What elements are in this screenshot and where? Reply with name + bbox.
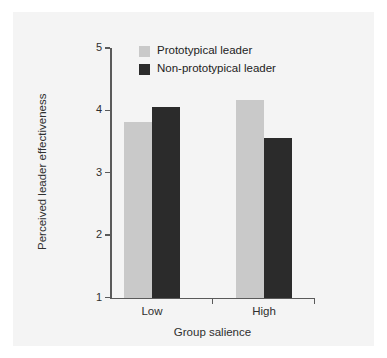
y-tick-label-2: 2: [86, 229, 102, 240]
bar-low-series-0: [124, 122, 152, 298]
chart-figure: 12345 Low High Group salience Perceived …: [0, 0, 387, 358]
y-tick-mark-3: [105, 172, 110, 173]
legend-swatch-prototypical: [139, 46, 150, 57]
y-tick-mark-4: [105, 110, 110, 111]
legend-item-prototypical: Prototypical leader: [139, 44, 276, 58]
bar-high-series-0: [236, 100, 264, 297]
plot-area: 12345 Low High Group salience Perceived …: [0, 0, 387, 358]
bar-high-series-1: [264, 138, 292, 297]
legend-item-non-prototypical: Non-prototypical leader: [139, 62, 276, 76]
y-tick-label-5: 5: [86, 42, 102, 53]
y-tick-label-4: 4: [86, 104, 102, 115]
x-axis-tick-mid: [212, 299, 213, 304]
legend-label-prototypical: Prototypical leader: [157, 45, 252, 57]
y-tick-mark-5: [105, 47, 110, 48]
x-tick-label-low: Low: [117, 306, 187, 318]
y-tick-mark-2: [105, 234, 110, 235]
y-axis-line: [110, 48, 112, 299]
bar-low-series-1: [152, 107, 180, 297]
x-tick-label-high: High: [229, 306, 299, 318]
y-tick-label-3: 3: [86, 167, 102, 178]
legend-label-non-prototypical: Non-prototypical leader: [157, 63, 276, 75]
x-axis-tick-end: [314, 299, 315, 304]
y-axis-label: Perceived leader effectiveness: [37, 72, 49, 272]
chart-legend: Prototypical leader Non-prototypical lea…: [139, 44, 276, 80]
y-tick-label-1: 1: [86, 292, 102, 303]
y-tick-mark-1: [105, 297, 110, 298]
x-axis-label: Group salience: [110, 327, 315, 339]
legend-swatch-non-prototypical: [139, 64, 150, 75]
